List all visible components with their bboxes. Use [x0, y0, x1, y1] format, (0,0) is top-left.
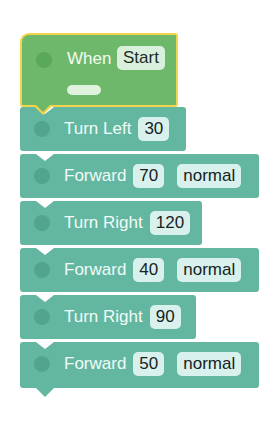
block-dot-icon [34, 356, 50, 372]
connector-notch [36, 201, 54, 208]
distance-input[interactable]: 40 [133, 258, 164, 282]
connector-notch [36, 248, 54, 255]
angle-input[interactable]: 30 [138, 117, 169, 141]
when-start-hat-block[interactable]: When Start [20, 33, 178, 107]
block-label: Forward [64, 164, 126, 188]
speed-dropdown[interactable]: normal [177, 352, 241, 376]
connector-notch [36, 295, 54, 302]
connector-notch [36, 342, 54, 349]
turn-right-block[interactable]: Turn Right 120 [20, 201, 202, 245]
event-dropdown[interactable]: Start [117, 46, 165, 70]
forward-block[interactable]: Forward 70 normal [20, 154, 259, 198]
speed-dropdown[interactable]: normal [177, 258, 241, 282]
block-dot-icon [34, 309, 50, 325]
angle-input[interactable]: 120 [150, 211, 190, 235]
hat-block-label: When [67, 47, 111, 71]
connector-notch-fill [36, 105, 50, 112]
forward-block[interactable]: Forward 50 normal [20, 342, 259, 388]
distance-input[interactable]: 50 [133, 352, 164, 376]
bottom-connector-tab [36, 388, 54, 397]
block-dot-icon [36, 52, 52, 68]
turn-right-block[interactable]: Turn Right 90 [20, 295, 196, 339]
speed-dropdown[interactable]: normal [177, 164, 241, 188]
angle-input[interactable]: 90 [150, 305, 181, 329]
distance-input[interactable]: 70 [133, 164, 164, 188]
block-label: Turn Left [64, 117, 131, 141]
block-label: Forward [64, 352, 126, 376]
block-label: Forward [64, 258, 126, 282]
forward-block[interactable]: Forward 40 normal [20, 248, 259, 292]
block-label: Turn Right [64, 305, 143, 329]
block-dot-icon [34, 121, 50, 137]
block-label: Turn Right [64, 211, 143, 235]
block-dot-icon [34, 262, 50, 278]
block-dot-icon [34, 168, 50, 184]
statement-slot [67, 85, 101, 95]
connector-notch [36, 154, 54, 161]
block-dot-icon [34, 215, 50, 231]
